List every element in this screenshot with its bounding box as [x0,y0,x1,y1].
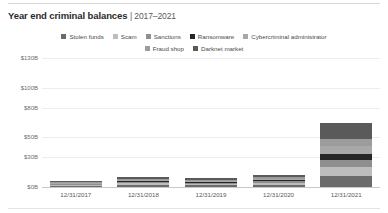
legend-swatch-icon [146,34,151,39]
x-axis-tick-label: 12/31/2017 [42,191,110,198]
y-axis-tick-label: $100B [21,85,38,91]
y-axis-tick-label: $30B [24,154,38,160]
stacked-bar[interactable] [320,123,372,187]
y-axis-tick-label: $50B [24,134,38,140]
bar-segment[interactable] [320,123,372,139]
bar-segment[interactable] [320,139,372,146]
bar-segment[interactable] [117,185,169,187]
x-axis-labels: 12/31/201712/31/201812/31/201912/31/2020… [42,191,380,198]
stacked-bar[interactable] [117,177,169,187]
y-axis-tick-label: $80B [24,105,38,111]
bar-slot [245,58,313,187]
bar-slot [110,58,178,187]
legend-swatch-icon [193,46,198,51]
legend-label: Cybercriminal administrator [251,33,326,40]
bar-segment[interactable] [185,185,237,187]
bar-segment[interactable] [320,146,372,154]
chart-title-main: Year end criminal balances [8,10,127,21]
bar-segment[interactable] [320,167,372,176]
chart-legend: Stolen fundsScamSanctionsRansomwareCyber… [0,30,388,54]
x-axis-tick-label: 12/31/2020 [245,191,313,198]
legend-label: Stolen funds [69,33,103,40]
legend-item[interactable]: Fraud shop [145,45,184,52]
y-axis-labels: $0B$30B$50B$80B$100B$130B [0,58,42,189]
legend-label: Darknet market [201,45,243,52]
legend-swatch-icon [113,34,118,39]
legend-label: Ransomware [198,33,234,40]
plot-area: $0B$30B$50B$80B$100B$130B 12/31/201712/3… [0,58,388,213]
y-axis-tick-label: $130B [21,55,38,61]
stacked-bar[interactable] [185,178,237,187]
bar-slot [42,58,110,187]
legend-swatch-icon [190,34,195,39]
legend-item[interactable]: Stolen funds [61,33,103,40]
legend-label: Scam [121,33,137,40]
y-axis-tick-label: $0B [27,184,38,190]
chart-title: Year end criminal balances | 2017–2021 [8,10,176,21]
legend-label: Sanctions [154,33,181,40]
legend-item[interactable]: Darknet market [193,45,243,52]
stacked-bar[interactable] [50,181,102,187]
legend-row-1: Stolen fundsScamSanctionsRansomwareCyber… [0,30,388,42]
chart-title-subtitle: | 2017–2021 [130,11,176,21]
bar-segment[interactable] [320,176,372,187]
legend-swatch-icon [145,46,150,51]
bar-segment[interactable] [253,185,305,187]
x-axis-tick-label: 12/31/2021 [312,191,380,198]
bar-group [42,58,380,187]
bottom-divider [8,208,380,209]
legend-item[interactable]: Scam [113,33,137,40]
legend-swatch-icon [243,34,248,39]
bar-slot [177,58,245,187]
x-axis-tick-label: 12/31/2019 [177,191,245,198]
bar-segment[interactable] [320,160,372,167]
legend-row-2: Fraud shopDarknet market [0,42,388,54]
x-axis-line [42,187,380,188]
bar-slot [312,58,380,187]
legend-item[interactable]: Sanctions [146,33,181,40]
legend-label: Fraud shop [153,45,184,52]
legend-item[interactable]: Ransomware [190,33,234,40]
stacked-bar[interactable] [253,175,305,187]
legend-item[interactable]: Cybercriminal administrator [243,33,326,40]
top-divider [8,3,380,4]
legend-swatch-icon [61,34,66,39]
x-axis-tick-label: 12/31/2018 [110,191,178,198]
bar-segment[interactable] [50,186,102,187]
